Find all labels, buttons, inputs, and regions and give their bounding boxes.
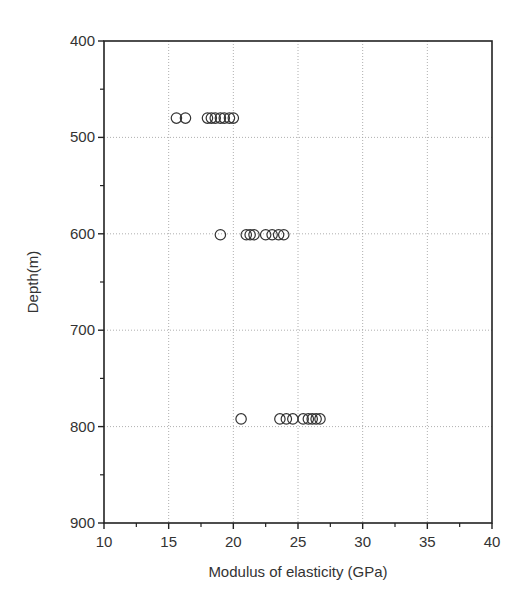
y-axis-title: Depth(m) — [24, 251, 41, 314]
y-tick-label: 600 — [70, 225, 95, 242]
x-tick-label: 20 — [225, 533, 242, 550]
data-point-marker — [236, 414, 246, 424]
y-tick-label: 900 — [70, 514, 95, 531]
data-point-marker — [215, 230, 225, 240]
scatter-chart: 10152025303540 400500600700800900 Modulu… — [0, 0, 527, 606]
x-tick-label: 30 — [354, 533, 371, 550]
x-tick-label: 40 — [484, 533, 501, 550]
y-tick-label: 400 — [70, 32, 95, 49]
x-tick-label: 10 — [96, 533, 113, 550]
y-axis: 400500600700800900 — [70, 32, 104, 531]
x-axis-title: Modulus of elasticity (GPa) — [208, 563, 387, 580]
data-points — [171, 113, 325, 424]
grid-lines — [104, 41, 492, 523]
x-axis: 10152025303540 — [96, 523, 501, 550]
y-tick-label: 700 — [70, 321, 95, 338]
x-tick-label: 25 — [290, 533, 307, 550]
y-tick-label: 500 — [70, 128, 95, 145]
data-point-marker — [288, 414, 298, 424]
x-tick-label: 35 — [419, 533, 436, 550]
x-tick-label: 15 — [160, 533, 177, 550]
y-tick-label: 800 — [70, 418, 95, 435]
